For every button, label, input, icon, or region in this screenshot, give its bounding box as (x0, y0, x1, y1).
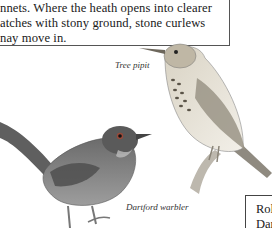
side-text-line: Rol (256, 202, 272, 217)
dartford-warbler-caption: Dartford warbler (126, 202, 188, 212)
body-text-line: nnets. Where the heath opens into cleare… (0, 1, 212, 16)
side-text-line: Dar (256, 217, 272, 228)
side-text-box: Rol Dar & (245, 195, 272, 228)
tree-pipit-caption: Tree pipit (115, 60, 149, 70)
body-text-line: nay move in. (0, 31, 67, 46)
body-text-line: atches with stony ground, stone curlews (0, 16, 205, 31)
